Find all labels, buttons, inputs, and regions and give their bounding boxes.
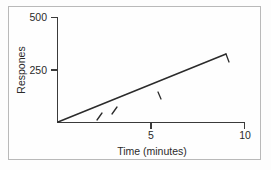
x-tick-label-10: 10 xyxy=(239,129,251,141)
hash-mark-1 xyxy=(97,113,102,120)
x-tick-label-5: 5 xyxy=(148,129,154,141)
figure-container: 500 250 5 10 Respones Time (minutes) xyxy=(0,0,271,170)
y-tick-label-500: 500 xyxy=(29,11,47,23)
hash-mark-4 xyxy=(226,54,229,62)
hash-mark-2 xyxy=(112,107,117,114)
chart-canvas: 500 250 5 10 Respones Time (minutes) xyxy=(0,0,271,170)
y-axis-title: Respones xyxy=(15,46,27,93)
y-tick-label-250: 250 xyxy=(29,64,47,76)
data-trend-line xyxy=(58,54,226,122)
x-axis-title: Time (minutes) xyxy=(117,145,187,157)
hash-mark-3 xyxy=(158,92,161,99)
